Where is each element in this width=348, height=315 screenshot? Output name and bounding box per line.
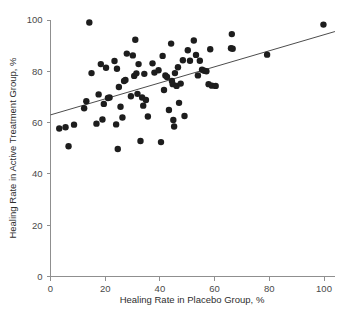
x-tick-label: 60 <box>209 283 220 294</box>
scatter-point <box>158 139 164 145</box>
scatter-point <box>207 46 213 52</box>
x-axis: 020406080100 <box>48 277 335 294</box>
scatter-point <box>98 61 104 67</box>
scatter-point <box>229 46 235 52</box>
scatter-point <box>203 68 209 74</box>
scatter-point <box>122 77 128 83</box>
scatter-point <box>175 64 181 70</box>
scatter-point <box>193 52 199 58</box>
scatter-point <box>115 146 121 152</box>
scatter-point <box>171 123 177 129</box>
y-tick-label: 60 <box>32 117 43 128</box>
scatter-point <box>320 21 326 27</box>
scatter-point <box>65 143 71 149</box>
scatter-point <box>119 114 125 120</box>
scatter-point <box>83 98 89 104</box>
y-tick-group <box>47 20 51 277</box>
scatter-point <box>170 117 176 123</box>
y-tick-label: 40 <box>32 168 43 179</box>
scatter-point <box>137 138 143 144</box>
scatter-point <box>99 116 105 122</box>
x-axis-title: Healing Rate in Placebo Group, % <box>120 294 265 305</box>
scatter-point <box>86 19 92 25</box>
x-tick-label: 100 <box>316 283 332 294</box>
scatter-point <box>161 87 167 93</box>
scatter-point <box>93 120 99 126</box>
y-axis-title: Healing Rate in Active Treatment Group, … <box>7 57 18 239</box>
scatter-point <box>114 66 120 72</box>
scatter-point <box>133 70 139 76</box>
scatter-point <box>135 61 141 67</box>
scatter-point <box>145 113 151 119</box>
y-tick-label: 80 <box>32 66 43 77</box>
scatter-point <box>71 121 77 127</box>
scatter-point <box>116 84 122 90</box>
scatter-point <box>180 57 186 63</box>
scatter-point <box>128 93 134 99</box>
scatter-point <box>62 124 68 130</box>
scatter-point <box>141 71 147 77</box>
scatter-point <box>195 72 201 78</box>
y-axis: 020406080100 <box>27 14 51 282</box>
scatter-point <box>95 91 101 97</box>
scatter-point <box>149 60 155 66</box>
y-tick-label: 0 <box>37 271 42 282</box>
scatter-point <box>166 107 172 113</box>
scatter-point <box>155 67 161 73</box>
scatter-point <box>164 74 170 80</box>
scatter-point <box>172 70 178 76</box>
scatter-point <box>124 50 130 56</box>
chart-canvas: 020406080100 020406080100 Healing Rate i… <box>0 0 348 315</box>
x-tick-label: 40 <box>155 283 166 294</box>
scatter-point <box>117 103 123 109</box>
scatter-point <box>130 52 136 58</box>
scatter-point <box>143 97 149 103</box>
scatter-point <box>187 58 193 64</box>
scatter-point <box>101 101 107 107</box>
scatter-point <box>88 70 94 76</box>
y-tick-label: 100 <box>27 14 43 25</box>
scatter-point <box>197 58 203 64</box>
y-tick-label: 20 <box>32 220 43 231</box>
scatter-point <box>159 53 165 59</box>
x-tick-label: 0 <box>48 283 53 294</box>
x-tick-label: 20 <box>100 283 111 294</box>
y-tick-label-group: 020406080100 <box>27 14 43 282</box>
scatter-point <box>111 58 117 64</box>
scatter-point <box>181 113 187 119</box>
scatter-point <box>106 94 112 100</box>
scatter-point <box>185 47 191 53</box>
scatter-point <box>176 100 182 106</box>
scatter-plot-figure: 020406080100 020406080100 Healing Rate i… <box>0 0 348 315</box>
scatter-point <box>264 51 270 57</box>
scatter-point <box>103 65 109 71</box>
x-tick-group <box>51 277 325 281</box>
scatter-point <box>168 40 174 46</box>
scatter-point <box>140 102 146 108</box>
scatter-point <box>56 125 62 131</box>
scatter-point <box>212 83 218 89</box>
scatter-point <box>132 37 138 43</box>
scatter-point <box>113 121 119 127</box>
scatter-point <box>229 31 235 37</box>
scatter-point <box>81 105 87 111</box>
x-tick-label: 80 <box>264 283 275 294</box>
scatter-points-group <box>56 19 327 152</box>
scatter-point <box>177 80 183 86</box>
x-tick-label-group: 020406080100 <box>48 283 332 294</box>
scatter-point <box>191 37 197 43</box>
